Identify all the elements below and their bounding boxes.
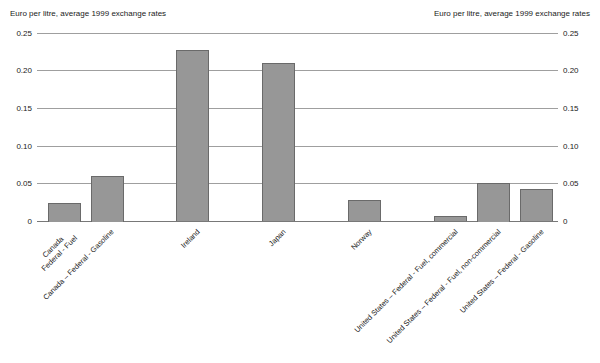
y-tick-label-right: 0.15 (563, 104, 579, 113)
x-category-label-text: United States – Federal - Gasoline (458, 228, 545, 315)
y-tick-label-left: 0.25 (0, 29, 32, 38)
y-tick-label-left: 0.10 (0, 142, 32, 151)
fuel-tax-bar-chart: Euro per litre, average 1999 exchange ra… (0, 0, 600, 363)
y-tick-label-right: 0.10 (563, 142, 579, 151)
y-tick-label-left: 0.15 (0, 104, 32, 113)
gridline (37, 70, 558, 71)
gridline (37, 33, 558, 34)
x-category-label-text: Norway (350, 228, 374, 252)
y-tick-label-left: 0.05 (0, 179, 32, 188)
gridline (37, 108, 558, 109)
bar (348, 200, 381, 222)
y-tick-label-right: 0.05 (563, 179, 579, 188)
y-tick-label-right: 0.20 (563, 66, 579, 75)
bar (91, 176, 124, 222)
bar (520, 189, 553, 221)
gridline (37, 146, 558, 147)
bar (48, 203, 81, 222)
x-category-label-text: Japan (267, 228, 287, 248)
right-axis-title: Euro per litre, average 1999 exchange ra… (434, 9, 590, 18)
x-category-label: Canada Federal - Fuel (0, 228, 79, 360)
x-category-label-text: Ireland (180, 228, 202, 250)
bar (477, 183, 510, 222)
bar (434, 216, 467, 221)
left-axis-title: Euro per litre, average 1999 exchange ra… (10, 9, 166, 18)
bar (176, 50, 209, 222)
y-tick-label-left: 0 (0, 217, 32, 226)
bar (262, 63, 295, 221)
y-tick-label-right: 0.25 (563, 29, 579, 38)
y-tick-label-left: 0.20 (0, 66, 32, 75)
y-tick-label-right: 0 (563, 217, 567, 226)
